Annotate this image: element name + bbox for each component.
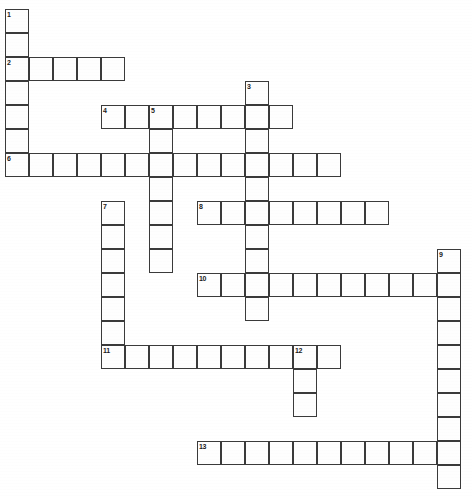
crossword-cell[interactable] [149,153,173,177]
crossword-cell[interactable] [293,201,317,225]
crossword-cell[interactable] [317,153,341,177]
crossword-cell[interactable] [437,369,461,393]
crossword-cell[interactable] [101,57,125,81]
crossword-cell[interactable] [221,105,245,129]
crossword-cell[interactable] [149,105,173,129]
crossword-cell[interactable] [293,369,317,393]
crossword-cell[interactable] [149,201,173,225]
crossword-cell[interactable] [197,441,221,465]
crossword-cell[interactable] [365,273,389,297]
crossword-cell[interactable] [77,57,101,81]
crossword-cell[interactable] [101,297,125,321]
crossword-cell[interactable] [245,249,269,273]
crossword-cell[interactable] [197,273,221,297]
crossword-cell[interactable] [101,153,125,177]
crossword-cell[interactable] [101,273,125,297]
crossword-cell[interactable] [29,153,53,177]
crossword-cell[interactable] [245,225,269,249]
crossword-cell[interactable] [101,201,125,225]
crossword-cell[interactable] [245,129,269,153]
crossword-cell[interactable] [53,153,77,177]
crossword-cell[interactable] [221,345,245,369]
crossword-cell[interactable] [365,441,389,465]
crossword-cell[interactable] [293,273,317,297]
crossword-cell[interactable] [437,393,461,417]
crossword-cell[interactable] [197,345,221,369]
crossword-cell[interactable] [125,345,149,369]
crossword-cell[interactable] [269,273,293,297]
crossword-cell[interactable] [293,441,317,465]
crossword-cell[interactable] [5,33,29,57]
crossword-cell[interactable] [245,273,269,297]
crossword-cell[interactable] [293,345,317,369]
crossword-cell[interactable] [269,441,293,465]
crossword-cell[interactable] [437,249,461,273]
crossword-cell[interactable] [317,441,341,465]
crossword-cell[interactable] [245,153,269,177]
crossword-cell[interactable] [221,201,245,225]
crossword-cell[interactable] [125,153,149,177]
crossword-cell[interactable] [413,441,437,465]
crossword-cell[interactable] [149,129,173,153]
crossword-cell[interactable] [149,177,173,201]
crossword-cell[interactable] [269,345,293,369]
crossword-cell[interactable] [245,201,269,225]
crossword-cell[interactable] [125,105,149,129]
crossword-cell[interactable] [221,441,245,465]
crossword-cell[interactable] [293,153,317,177]
crossword-cell[interactable] [221,273,245,297]
crossword-cell[interactable] [5,129,29,153]
crossword-cell[interactable] [317,273,341,297]
crossword-cell[interactable] [149,345,173,369]
crossword-cell[interactable] [245,105,269,129]
crossword-cell[interactable] [5,9,29,33]
crossword-cell[interactable] [269,201,293,225]
crossword-cell[interactable] [317,201,341,225]
crossword-cell[interactable] [437,441,461,465]
crossword-cell[interactable] [77,153,101,177]
crossword-cell[interactable] [173,345,197,369]
crossword-cell[interactable] [5,57,29,81]
crossword-cell[interactable] [101,225,125,249]
crossword-cell[interactable] [437,417,461,441]
crossword-cell[interactable] [437,321,461,345]
crossword-cell[interactable] [245,81,269,105]
crossword-cell[interactable] [197,201,221,225]
crossword-cell[interactable] [245,297,269,321]
crossword-cell[interactable] [173,153,197,177]
crossword-cell[interactable] [221,153,245,177]
crossword-cell[interactable] [53,57,77,81]
crossword-cell[interactable] [269,153,293,177]
crossword-cell[interactable] [389,441,413,465]
crossword-cell[interactable] [245,345,269,369]
crossword-cell[interactable] [437,345,461,369]
crossword-cell[interactable] [365,201,389,225]
crossword-cell[interactable] [389,273,413,297]
crossword-cell[interactable] [197,105,221,129]
crossword-cell[interactable] [5,105,29,129]
crossword-cell[interactable] [173,105,197,129]
crossword-cell[interactable] [101,249,125,273]
crossword-grid[interactable]: 12345678910111213 [0,0,472,496]
crossword-cell[interactable] [437,297,461,321]
crossword-cell[interactable] [245,441,269,465]
crossword-cell[interactable] [341,273,365,297]
crossword-cell[interactable] [341,441,365,465]
crossword-cell[interactable] [101,105,125,129]
crossword-cell[interactable] [101,321,125,345]
crossword-cell[interactable] [437,465,461,489]
crossword-cell[interactable] [293,393,317,417]
crossword-cell[interactable] [5,81,29,105]
crossword-cell[interactable] [197,153,221,177]
crossword-cell[interactable] [317,345,341,369]
crossword-cell[interactable] [101,345,125,369]
crossword-cell[interactable] [29,57,53,81]
crossword-cell[interactable] [149,249,173,273]
crossword-cell[interactable] [413,273,437,297]
crossword-cell[interactable] [245,177,269,201]
crossword-cell[interactable] [149,225,173,249]
crossword-cell[interactable] [5,153,29,177]
crossword-cell[interactable] [437,273,461,297]
crossword-cell[interactable] [269,105,293,129]
crossword-cell[interactable] [341,201,365,225]
